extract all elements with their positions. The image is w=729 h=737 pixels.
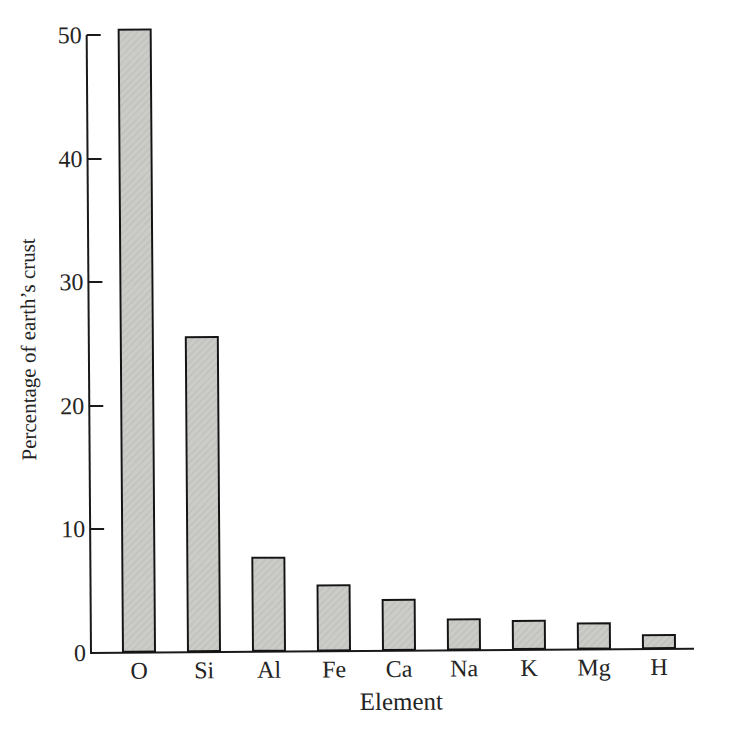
bar-chart-figure: Percentage of earth’s crust 01020304050O…: [0, 0, 729, 737]
y-tick-mark: [90, 528, 104, 530]
y-tick-label: 40: [0, 147, 83, 172]
y-tick-label: 50: [0, 23, 82, 48]
y-axis-line: [86, 35, 92, 654]
bar: [185, 336, 221, 652]
x-axis-title: Element: [360, 689, 443, 715]
y-tick-label: 20: [0, 394, 84, 419]
y-tick-label: 10: [0, 517, 85, 542]
x-category-label: Ca: [386, 657, 413, 681]
bar: [317, 584, 351, 651]
bar: [251, 557, 286, 652]
bar: [642, 634, 676, 649]
x-category-label: Fe: [322, 657, 346, 681]
bar: [447, 618, 481, 650]
bar: [512, 620, 546, 650]
x-category-label: K: [520, 656, 538, 680]
bar: [577, 622, 611, 649]
x-category-label: Al: [257, 658, 281, 682]
y-tick-mark: [89, 405, 103, 407]
y-tick-mark: [87, 34, 101, 36]
chart-canvas: Percentage of earth’s crust 01020304050O…: [0, 0, 729, 737]
y-tick-label: 30: [0, 270, 83, 295]
x-category-label: Si: [194, 658, 214, 682]
x-category-label: H: [650, 655, 668, 679]
y-tick-label: 0: [0, 641, 86, 666]
x-category-label: Mg: [577, 655, 611, 679]
y-tick-mark: [88, 158, 102, 160]
bar: [118, 29, 156, 653]
x-category-label: Na: [450, 656, 478, 680]
bar: [382, 599, 416, 651]
x-category-label: O: [130, 659, 148, 683]
y-tick-mark: [88, 281, 102, 283]
plot-area: 01020304050OSiAlFeCaNaKMgH: [0, 0, 729, 737]
